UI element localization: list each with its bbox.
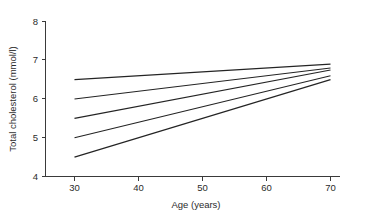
x-axis-title: Age (years): [171, 199, 220, 210]
x-tick-label-70: 70: [325, 182, 336, 193]
x-tick-label-30: 30: [69, 182, 80, 193]
y-axis-ticks: [42, 22, 46, 177]
cholesterol-age-chart: 4 5 6 7 8 30 40 50 60 70 Age (years) Tot…: [0, 0, 372, 220]
x-tick-label-50: 50: [197, 182, 208, 193]
y-axis-title: Total cholesterol (mmol/l): [7, 46, 18, 152]
chart-canvas: 4 5 6 7 8 30 40 50 60 70 Age (years) Tot…: [0, 0, 372, 220]
y-tick-label-5: 5: [33, 132, 38, 143]
y-tick-label-4: 4: [33, 171, 38, 182]
x-tick-label-40: 40: [133, 182, 144, 193]
y-tick-label-7: 7: [33, 54, 38, 65]
y-tick-label-6: 6: [33, 93, 38, 104]
series-line-5: [75, 80, 331, 158]
y-tick-label-8: 8: [33, 16, 38, 27]
x-tick-label-60: 60: [261, 182, 272, 193]
series-layer: [75, 64, 331, 157]
x-axis-ticks: [75, 177, 331, 182]
series-line-4: [75, 76, 331, 138]
